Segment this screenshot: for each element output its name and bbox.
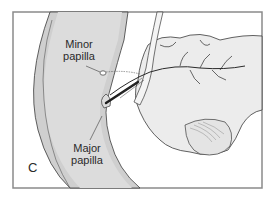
major-papilla-label-line1: Major <box>62 142 112 154</box>
minor-papilla-label-line2: papilla <box>54 50 104 62</box>
minor-papilla-label: Minor papilla <box>54 38 104 62</box>
minor-papilla-label-line1: Minor <box>54 38 104 50</box>
major-papilla-label: Major papilla <box>62 142 112 166</box>
pancreas-duodenum-illustration <box>0 0 269 199</box>
panel-letter: C <box>28 160 37 175</box>
minor-papilla-marker <box>100 71 106 75</box>
major-papilla-label-line2: papilla <box>62 154 112 166</box>
anatomy-figure: Minor papilla Major papilla C <box>0 0 269 199</box>
